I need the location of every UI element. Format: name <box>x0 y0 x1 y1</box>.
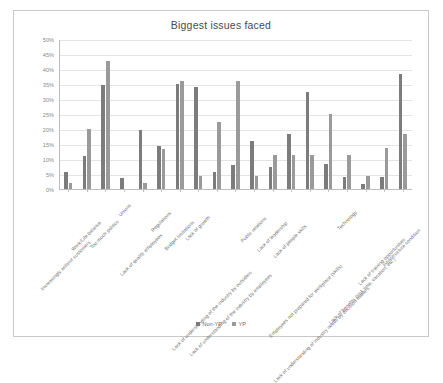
bar-non-yp <box>139 130 143 190</box>
x-axis-category-labels: Increasingly activist customersWork/Life… <box>59 192 412 312</box>
legend-item[interactable]: Non-YP <box>196 321 222 327</box>
bar-non-yp <box>101 85 105 190</box>
x-axis-category-label: Unions <box>118 203 133 218</box>
y-axis-tick-label: 35% <box>43 82 54 88</box>
bar-non-yp <box>213 172 217 190</box>
y-axis-tick-label: 5% <box>46 172 54 178</box>
plot-area <box>59 40 412 190</box>
bar-non-yp <box>194 87 198 190</box>
y-axis-tick-label: 40% <box>43 67 54 73</box>
bar-group <box>245 40 264 190</box>
bar-yp <box>403 134 407 190</box>
bar-group <box>226 40 245 190</box>
bar-non-yp <box>231 165 235 190</box>
bar-group <box>393 40 412 190</box>
x-axis-category-label: Lack of understanding of the industry by… <box>188 273 272 357</box>
bar-series-container <box>59 40 412 190</box>
chart-title: Biggest issues faced <box>14 19 428 31</box>
bar-yp <box>255 176 259 190</box>
bar-yp <box>217 122 221 190</box>
bar-group <box>78 40 97 190</box>
bar-yp <box>366 176 370 190</box>
bar-non-yp <box>399 74 403 190</box>
bar-yp <box>347 155 351 190</box>
y-axis-tick-label: 0% <box>46 187 54 193</box>
bar-yp <box>87 129 91 190</box>
y-axis-tick-label: 15% <box>43 142 54 148</box>
bar-group <box>115 40 134 190</box>
bar-yp <box>292 155 296 190</box>
x-axis-category-label: Technology <box>337 210 358 231</box>
bar-yp <box>199 176 203 190</box>
x-axis-category-label: Lack of understanding of the industry by… <box>171 270 253 352</box>
legend-swatch-icon <box>196 322 200 326</box>
bar-group <box>263 40 282 190</box>
y-axis-tick-labels: 50%45%40%35%30%25%20%15%10%5%0% <box>14 40 57 190</box>
y-axis-tick-label: 25% <box>43 112 54 118</box>
bar-non-yp <box>157 146 161 190</box>
y-axis-tick-label: 45% <box>43 52 54 58</box>
bar-non-yp <box>250 141 254 191</box>
x-axis-category-label: Regulations <box>150 211 172 233</box>
bar-group <box>319 40 338 190</box>
bar-group <box>59 40 78 190</box>
bar-non-yp <box>176 84 180 191</box>
chart-legend: Non-YPYP <box>14 321 428 327</box>
bar-group <box>96 40 115 190</box>
y-axis-tick-label: 50% <box>43 37 54 43</box>
bar-group <box>338 40 357 190</box>
legend-item[interactable]: YP <box>232 321 246 327</box>
bar-group <box>133 40 152 190</box>
bar-group <box>282 40 301 190</box>
x-axis-category-label: Infrastructure condition <box>382 228 422 268</box>
x-axis-category-label: Public relations <box>240 216 268 244</box>
bar-yp <box>106 61 110 190</box>
bar-non-yp <box>324 164 328 190</box>
bar-group <box>152 40 171 190</box>
bar-yp <box>310 155 314 190</box>
x-axis-category-label: Lack of quality employees <box>119 233 163 277</box>
y-axis-tick-label: 10% <box>43 157 54 163</box>
bar-non-yp <box>83 156 87 190</box>
legend-label: YP <box>239 321 246 327</box>
bar-yp <box>180 81 184 191</box>
bar-non-yp <box>306 92 310 190</box>
bar-group <box>375 40 394 190</box>
legend-swatch-icon <box>232 322 236 326</box>
bar-yp <box>273 155 277 190</box>
bar-yp <box>236 81 240 191</box>
x-axis-category-label: Lack of training opportunities <box>358 237 407 286</box>
bar-yp <box>329 114 333 190</box>
bar-non-yp <box>64 172 68 190</box>
bar-yp <box>162 149 166 190</box>
y-axis-tick-label: 20% <box>43 127 54 133</box>
x-axis-line <box>59 189 412 190</box>
bar-non-yp <box>269 167 273 190</box>
y-axis-tick-label: 30% <box>43 97 54 103</box>
bar-group <box>208 40 227 190</box>
bar-non-yp <box>287 134 291 190</box>
bar-yp <box>385 148 389 190</box>
bar-group <box>189 40 208 190</box>
legend-label: Non-YP <box>202 321 222 327</box>
bar-group <box>301 40 320 190</box>
bar-group <box>356 40 375 190</box>
chart-container: Biggest issues faced 50%45%40%35%30%25%2… <box>13 10 429 337</box>
bar-group <box>170 40 189 190</box>
x-axis-category-label: Increasingly activist customers <box>40 240 92 292</box>
